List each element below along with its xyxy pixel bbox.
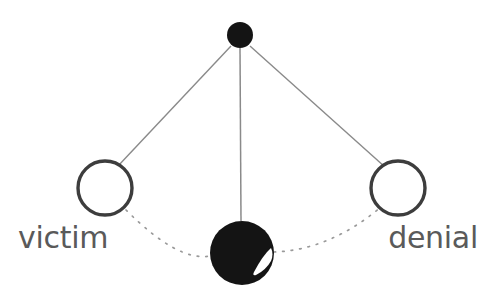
denial-label: denial — [388, 220, 478, 255]
edge-top-right — [250, 46, 385, 167]
diagram-canvas: victim denial — [0, 0, 500, 293]
victim-node[interactable] — [78, 161, 132, 215]
edge-left-bottom — [126, 210, 210, 257]
top-filled-node[interactable] — [227, 22, 253, 48]
denial-node[interactable] — [371, 161, 425, 215]
graph-diagram: victim denial — [0, 0, 500, 293]
edge-top-left — [118, 46, 231, 166]
victim-label: victim — [18, 220, 108, 255]
edge-top-bottom — [240, 48, 241, 221]
bottom-filled-node[interactable] — [210, 221, 274, 285]
bottom-node-disc — [210, 221, 274, 285]
solid-edges-group — [118, 46, 385, 221]
edge-bottom-right — [274, 207, 381, 252]
